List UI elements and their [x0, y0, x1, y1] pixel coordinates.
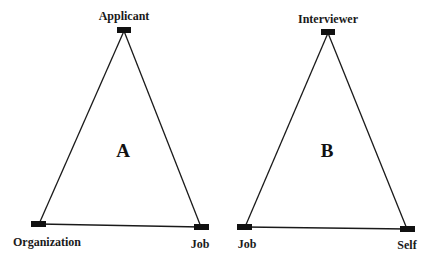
- node-self: [400, 226, 415, 232]
- label-applicant: Applicant: [99, 9, 150, 23]
- edge-applicant-job: [124, 31, 201, 227]
- node-job-a: [194, 224, 209, 230]
- node-organization: [31, 221, 46, 227]
- label-organization: Organization: [13, 235, 81, 249]
- edge-interviewer-self: [328, 33, 407, 229]
- edge-organization-job: [39, 224, 201, 227]
- letter-b: B: [321, 140, 334, 161]
- label-job-b: Job: [238, 237, 257, 251]
- node-job-b: [237, 224, 252, 230]
- letter-a: A: [116, 140, 130, 161]
- triangle-b: Interviewer Job Self B: [237, 12, 418, 252]
- edge-interviewer-job: [245, 33, 328, 227]
- edge-applicant-organization: [39, 31, 124, 224]
- label-self: Self: [397, 238, 417, 252]
- label-interviewer: Interviewer: [298, 12, 359, 26]
- node-interviewer: [321, 29, 335, 35]
- triangle-a: Applicant Organization Job A: [13, 9, 210, 251]
- label-job-a: Job: [191, 237, 210, 251]
- node-applicant: [117, 27, 131, 33]
- edge-job-self: [245, 227, 407, 229]
- triangle-diagrams: Applicant Organization Job A Interviewer…: [0, 0, 444, 268]
